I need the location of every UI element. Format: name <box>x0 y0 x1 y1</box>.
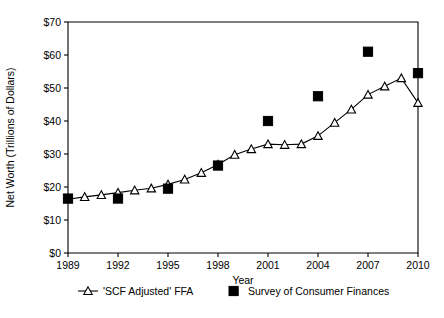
series-scf-adjusted-ffa <box>64 74 422 203</box>
net-worth-chart: $0$10$20$30$40$50$60$70 1989199219951998… <box>0 0 444 318</box>
chart-legend: 'SCF Adjusted' FFASurvey of Consumer Fin… <box>78 285 389 297</box>
x-tick-label: 1992 <box>106 259 130 271</box>
y-tick-label: $50 <box>43 82 61 94</box>
scf-marker <box>413 69 422 78</box>
x-tick-label: 1989 <box>56 259 80 271</box>
ffa-marker <box>414 99 422 107</box>
scf-marker <box>313 92 322 101</box>
y-axis-title: Net Worth (Trillions of Dollars) <box>4 67 16 207</box>
scf-marker <box>263 116 272 125</box>
y-tick-label: $40 <box>43 115 61 127</box>
ffa-marker <box>230 150 238 158</box>
ffa-marker <box>197 169 205 177</box>
y-tick-label: $0 <box>49 247 61 259</box>
scf-marker <box>363 47 372 56</box>
y-tick-label: $70 <box>43 16 61 28</box>
legend-label-ffa: 'SCF Adjusted' FFA <box>103 285 193 297</box>
y-tick-label: $10 <box>43 214 61 226</box>
y-axis-ticks <box>64 22 68 253</box>
legend-label-scf: Survey of Consumer Finances <box>248 285 389 297</box>
x-axis-tick-labels: 19891992199519982001200420072010 <box>56 259 430 271</box>
ffa-marker <box>380 82 388 90</box>
y-axis-tick-labels: $0$10$20$30$40$50$60$70 <box>43 16 61 259</box>
chart-svg: $0$10$20$30$40$50$60$70 1989199219951998… <box>0 0 444 318</box>
ffa-marker <box>397 74 405 82</box>
legend-scf-marker <box>229 286 238 295</box>
ffa-marker <box>314 132 322 140</box>
y-tick-label: $20 <box>43 181 61 193</box>
scf-marker <box>63 194 72 203</box>
x-tick-label: 1998 <box>206 259 230 271</box>
ffa-marker <box>330 118 338 126</box>
x-tick-label: 2004 <box>306 259 330 271</box>
x-tick-label: 2010 <box>406 259 430 271</box>
y-tick-label: $30 <box>43 148 61 160</box>
ffa-marker <box>180 175 188 183</box>
series-survey-of-consumer-finances <box>63 47 422 203</box>
ffa-marker <box>364 90 372 98</box>
x-tick-label: 1995 <box>156 259 180 271</box>
x-tick-label: 2007 <box>356 259 380 271</box>
scf-marker <box>163 184 172 193</box>
y-tick-label: $60 <box>43 49 61 61</box>
x-axis-ticks <box>68 253 418 257</box>
scf-marker <box>213 161 222 170</box>
scf-marker <box>113 194 122 203</box>
x-tick-label: 2001 <box>256 259 280 271</box>
